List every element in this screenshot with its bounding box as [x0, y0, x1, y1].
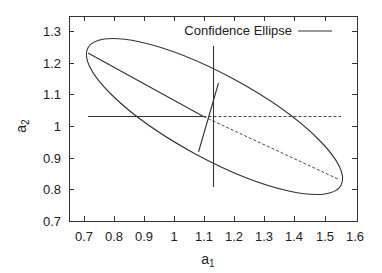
- x-tick-label: 1.1: [195, 229, 213, 244]
- y-tick-label: 1.3: [43, 24, 61, 39]
- y-axis-label: a2: [13, 119, 31, 133]
- major-axis-solid: [88, 53, 204, 117]
- y-tick-label: 1.2: [43, 56, 61, 71]
- x-axis-ticks: [85, 16, 326, 221]
- x-tick-labels: 0.7 0.8 0.9 1 1.1 1.2 1.3 1.4 1.5 1.6: [75, 229, 364, 244]
- y-tick-labels: 0.7 0.8 0.9 1 1.1 1.2 1.3: [43, 24, 61, 229]
- y-tick-label: 1.1: [43, 87, 61, 102]
- legend-label: Confidence Ellipse: [184, 23, 292, 38]
- minor-axis: [199, 83, 219, 152]
- x-tick-label: 1.5: [316, 229, 334, 244]
- y-tick-label: 0.8: [43, 182, 61, 197]
- legend: Confidence Ellipse: [184, 23, 332, 38]
- y-tick-label: 0.7: [43, 214, 61, 229]
- x-tick-label: 0.9: [135, 229, 153, 244]
- x-tick-label: 0.8: [105, 229, 123, 244]
- x-tick-label: 1.4: [285, 229, 303, 244]
- x-tick-label: 1.2: [225, 229, 243, 244]
- x-tick-label: 1.3: [255, 229, 273, 244]
- plot-area: [68, 11, 361, 222]
- confidence-ellipse-chart: 0.7 0.8 0.9 1 1.1 1.2 1.3 1.4 1.5 1.6 0.…: [0, 0, 382, 273]
- x-tick-label: 1.6: [346, 229, 364, 244]
- x-tick-label: 1: [170, 229, 177, 244]
- y-tick-label: 0.9: [43, 151, 61, 166]
- major-axis-dashed: [204, 117, 339, 180]
- y-tick-label: 1: [54, 119, 61, 134]
- x-tick-label: 0.7: [75, 229, 93, 244]
- x-axis-label: a1: [201, 251, 215, 269]
